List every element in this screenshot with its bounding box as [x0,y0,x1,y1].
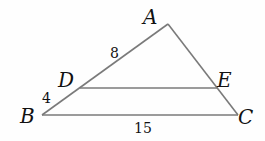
triangle-diagram: A B C D E 8 4 15 [0,0,265,141]
vertex-label-a: A [141,5,157,29]
vertex-label-e: E [216,68,232,92]
length-label-ad: 8 [110,45,119,61]
length-label-db: 4 [42,90,51,106]
vertex-label-d: D [57,68,74,92]
vertex-label-c: C [238,105,253,129]
diagram-canvas: A B C D E 8 4 15 [0,0,265,141]
vertex-label-b: B [19,104,35,128]
length-label-bc: 15 [134,120,152,136]
